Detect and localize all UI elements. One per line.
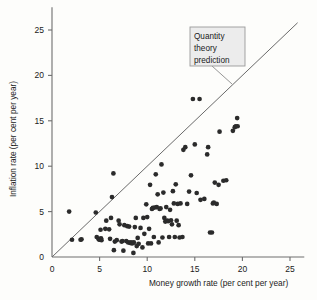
data-point bbox=[174, 218, 179, 223]
y-tick-label-0: 0 bbox=[39, 252, 44, 262]
data-point bbox=[159, 162, 164, 167]
y-tick-label-10: 10 bbox=[35, 161, 45, 171]
data-point bbox=[189, 173, 194, 178]
data-point bbox=[158, 206, 163, 211]
data-point bbox=[133, 216, 138, 221]
data-point bbox=[138, 226, 143, 231]
data-point bbox=[153, 172, 158, 177]
data-point bbox=[194, 191, 199, 196]
data-point bbox=[112, 248, 117, 253]
data-point bbox=[161, 190, 166, 195]
data-point bbox=[160, 235, 165, 240]
data-point bbox=[191, 97, 196, 102]
x-tick-label-15: 15 bbox=[190, 264, 200, 274]
data-point bbox=[192, 142, 197, 147]
y-tick-label-15: 15 bbox=[35, 116, 45, 126]
data-point bbox=[108, 236, 113, 241]
data-point bbox=[111, 171, 116, 176]
data-point bbox=[70, 237, 75, 242]
data-point bbox=[109, 216, 114, 221]
data-point bbox=[149, 241, 154, 246]
y-tick-label-5: 5 bbox=[39, 207, 44, 217]
data-point bbox=[185, 202, 190, 207]
data-point bbox=[173, 182, 178, 187]
data-point bbox=[168, 207, 173, 212]
data-point bbox=[169, 218, 174, 223]
data-point bbox=[171, 189, 176, 194]
data-point bbox=[145, 215, 150, 220]
chart-canvas: 05101520250510152025Quantitytheorypredic… bbox=[0, 0, 317, 300]
data-point bbox=[127, 224, 132, 229]
data-point bbox=[235, 124, 240, 129]
data-point bbox=[135, 236, 140, 241]
data-point bbox=[217, 129, 222, 134]
data-point bbox=[180, 235, 185, 240]
x-tick-label-5: 5 bbox=[97, 264, 102, 274]
y-axis-title: Inflation rate (per cent per year) bbox=[8, 81, 18, 197]
scatter-plot-figure: 05101520250510152025Quantitytheorypredic… bbox=[0, 0, 317, 300]
data-point bbox=[67, 209, 72, 214]
data-point bbox=[117, 222, 122, 227]
data-point bbox=[164, 205, 169, 210]
y-tick-label-20: 20 bbox=[35, 70, 45, 80]
data-point bbox=[167, 235, 172, 240]
data-point bbox=[144, 202, 149, 207]
data-point bbox=[216, 182, 221, 187]
data-point bbox=[224, 178, 229, 183]
x-axis-title: Money growth rate (per cent per year) bbox=[149, 278, 289, 288]
data-point bbox=[147, 227, 152, 232]
data-point bbox=[93, 210, 98, 215]
callout-line-3: prediction bbox=[194, 56, 230, 65]
data-point bbox=[170, 222, 175, 227]
data-point bbox=[206, 145, 211, 150]
data-point bbox=[98, 227, 103, 232]
data-point bbox=[114, 238, 119, 243]
data-point bbox=[99, 238, 104, 243]
data-point bbox=[187, 189, 192, 194]
data-point bbox=[142, 232, 147, 237]
data-point bbox=[197, 97, 202, 102]
data-point bbox=[131, 251, 136, 256]
data-point bbox=[152, 235, 157, 240]
x-tick-label-20: 20 bbox=[238, 264, 248, 274]
data-point bbox=[155, 192, 160, 197]
data-point bbox=[136, 241, 141, 246]
data-point bbox=[121, 248, 126, 253]
callout-line-1: Quantity bbox=[194, 32, 225, 41]
data-point bbox=[235, 116, 240, 121]
data-point bbox=[205, 152, 210, 157]
data-point bbox=[148, 182, 153, 187]
callout-line-2: theory bbox=[194, 44, 218, 53]
data-point bbox=[176, 223, 181, 228]
callout-leader-line bbox=[212, 66, 232, 84]
data-point bbox=[178, 201, 183, 206]
data-point bbox=[140, 245, 145, 250]
x-tick-label-10: 10 bbox=[142, 264, 152, 274]
data-point bbox=[172, 235, 177, 240]
x-tick-label-25: 25 bbox=[285, 264, 295, 274]
data-point bbox=[210, 230, 215, 235]
x-tick-label-0: 0 bbox=[50, 264, 55, 274]
data-point bbox=[183, 145, 188, 150]
data-point bbox=[107, 227, 112, 232]
data-point bbox=[132, 225, 137, 230]
data-point bbox=[104, 218, 109, 223]
data-point bbox=[110, 195, 115, 200]
data-point bbox=[214, 202, 219, 207]
y-tick-label-25: 25 bbox=[35, 25, 45, 35]
data-point bbox=[202, 197, 207, 202]
data-point bbox=[79, 237, 84, 242]
data-point bbox=[156, 240, 161, 245]
